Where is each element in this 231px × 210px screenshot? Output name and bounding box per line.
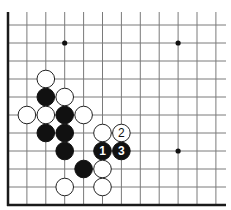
black-stone (56, 142, 74, 160)
white-stone-icon (56, 88, 74, 106)
move-number-label: 3 (118, 144, 125, 158)
black-stone (37, 124, 55, 142)
black-stone-move-1: 1 (94, 142, 112, 160)
black-stone-icon (37, 88, 55, 106)
black-stone-icon (56, 142, 74, 160)
white-stone-icon (37, 70, 55, 88)
star-point-icon (176, 148, 181, 153)
black-stone-icon (56, 124, 74, 142)
white-stone (56, 88, 74, 106)
black-stone-icon (37, 124, 55, 142)
white-stone-icon (75, 106, 93, 124)
black-stone-icon (75, 160, 93, 178)
white-stone (94, 178, 112, 196)
black-stone-move-3: 3 (113, 142, 131, 160)
white-stone-icon (18, 106, 36, 124)
white-stone (37, 106, 55, 124)
star-point-icon (176, 40, 181, 45)
white-stone-icon (94, 160, 112, 178)
white-stone-icon (56, 178, 74, 196)
black-stone-icon (56, 106, 74, 124)
white-stone (18, 106, 36, 124)
white-stone-icon (94, 124, 112, 142)
white-stone (37, 70, 55, 88)
black-stone (56, 106, 74, 124)
white-stone (94, 160, 112, 178)
white-stone-move-2: 2 (113, 124, 131, 142)
move-number-label: 2 (118, 126, 125, 140)
white-stone-icon (94, 178, 112, 196)
go-board: 213 (0, 0, 231, 210)
move-number-label: 1 (99, 144, 106, 158)
black-stone (56, 124, 74, 142)
white-stone-icon (37, 106, 55, 124)
white-stone (75, 106, 93, 124)
black-stone (37, 88, 55, 106)
white-stone (94, 124, 112, 142)
white-stone (56, 178, 74, 196)
star-point-icon (62, 40, 67, 45)
black-stone (75, 160, 93, 178)
